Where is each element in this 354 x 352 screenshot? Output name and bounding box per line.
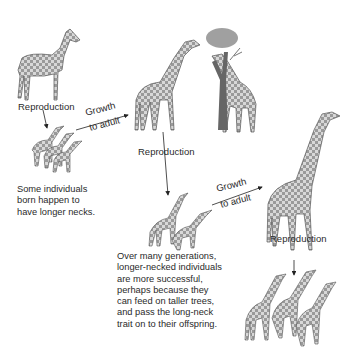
caption-individuals: Some individuals born happen to have lon… — [17, 184, 95, 218]
caption-individuals-line: have longer necks. — [17, 207, 95, 218]
arrow-reproduction-1 — [43, 110, 47, 128]
caption-generations-line: trait on to their offspring. — [117, 319, 222, 330]
offspring-group-2-icon — [149, 193, 212, 250]
label-reproduction-1: Reproduction — [18, 101, 75, 112]
long-neck-adult-icon — [267, 112, 340, 250]
arrow-reproduction-2 — [163, 132, 168, 195]
caption-individuals-line: Some individuals — [17, 184, 95, 195]
caption-generations-line: are more successful, — [117, 274, 222, 285]
caption-generations-line: can feed on taller trees, — [117, 296, 222, 307]
offspring-group-1-icon — [32, 126, 82, 172]
caption-generations-line: perhaps because they — [117, 285, 222, 296]
label-reproduction-3: Reproduction — [270, 233, 327, 244]
offspring-group-3-icon — [245, 270, 336, 346]
label-reproduction-2: Reproduction — [138, 146, 195, 157]
caption-generations-line: longer-necked individuals — [117, 262, 222, 273]
ancestor-giraffe-icon — [18, 29, 80, 100]
caption-individuals-line: born happen to — [17, 195, 95, 206]
caption-generations-line: Over many generations, — [117, 251, 222, 262]
caption-generations-line: and pass the long-neck — [117, 307, 222, 318]
caption-generations: Over many generations, longer-necked ind… — [117, 251, 222, 330]
